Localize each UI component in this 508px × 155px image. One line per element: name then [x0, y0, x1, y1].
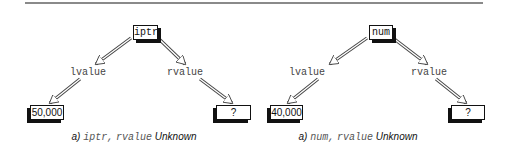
rvalue-label: rvalue [167, 67, 203, 78]
caption-code-rvalue: rvalue [116, 132, 152, 143]
lvalue-box-50000: 50,000 [30, 105, 64, 120]
lvalue-box-40000: 40,000 [270, 105, 303, 120]
variable-box-num: num [369, 25, 393, 40]
arrow-rvalue-to-value-2 [436, 79, 466, 103]
caption-prefix-2: a) [299, 131, 308, 142]
variable-box-iptr: iptr [133, 25, 158, 40]
arrow-iptr-to-rvalue [158, 38, 185, 64]
caption-left: a) iptr, rvalue Unknown [72, 131, 197, 143]
arrow-iptr-to-lvalue [96, 38, 131, 64]
caption-code-rvalue-2: rvalue [337, 132, 373, 143]
arrow-lvalue-to-value [50, 79, 80, 103]
caption-suffix: Unknown [155, 131, 197, 142]
caption-suffix-2: Unknown [376, 131, 418, 142]
rvalue-label-2: rvalue [411, 67, 447, 78]
arrow-num-to-lvalue [330, 38, 367, 64]
rvalue-box-unknown-2: ? [451, 105, 485, 120]
arrow-num-to-rvalue [393, 38, 427, 64]
lvalue-label-2: lvalue [289, 67, 325, 78]
arrow-rvalue-to-value [200, 79, 232, 103]
caption-prefix: a) [72, 131, 81, 142]
rvalue-box-unknown: ? [216, 105, 251, 120]
caption-code-var-2: num, [310, 132, 334, 143]
lvalue-label: lvalue [70, 67, 106, 78]
caption-code-var: iptr, [83, 132, 113, 143]
caption-right: a) num, rvalue Unknown [299, 131, 418, 143]
arrow-lvalue-to-value-2 [288, 79, 318, 103]
